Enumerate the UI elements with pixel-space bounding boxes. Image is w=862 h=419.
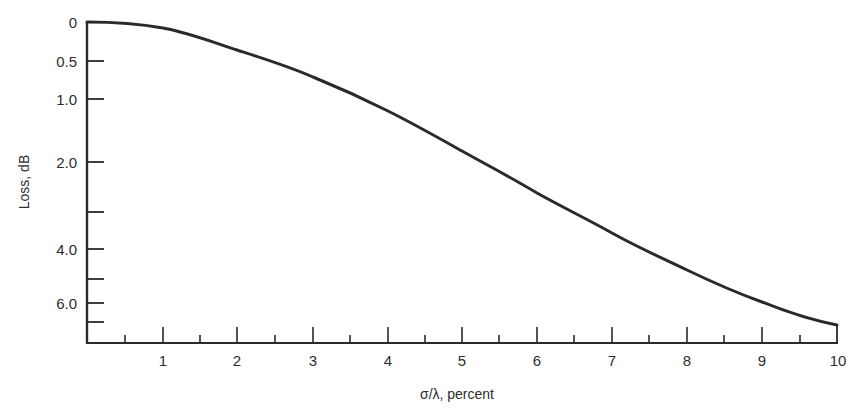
y-tick-label: 1.0	[56, 91, 77, 108]
y-tick-label: 2.0	[56, 154, 77, 171]
x-axis-title: σ/λ, percent	[420, 386, 494, 402]
y-tick-label: 6.0	[56, 295, 77, 312]
x-tick-label: 2	[233, 352, 241, 369]
x-tick-label: 3	[309, 352, 317, 369]
x-tick-label: 10	[830, 352, 847, 369]
x-axis: 1 2 3 4 5 6 7 8 9 10	[86, 324, 846, 369]
x-ticks	[125, 327, 800, 343]
y-tick-label: 0.5	[56, 53, 77, 70]
y-tick-label: 4.0	[56, 241, 77, 258]
x-tick-label: 5	[458, 352, 466, 369]
y-tick-label: 0	[69, 14, 77, 31]
x-tick-label: 4	[384, 352, 392, 369]
y-axis-title: Loss, dB	[16, 155, 32, 209]
x-tick-label: 6	[533, 352, 541, 369]
y-axis: 0 0.5 1.0 2.0 4.0 6.0	[56, 14, 104, 343]
x-tick-label: 7	[608, 352, 616, 369]
loss-curve	[87, 22, 837, 325]
loss-chart: 0 0.5 1.0 2.0 4.0 6.0	[0, 0, 862, 419]
x-tick-label: 9	[758, 352, 766, 369]
x-tick-label: 1	[159, 352, 167, 369]
y-ticks	[87, 61, 104, 322]
x-tick-label: 8	[683, 352, 691, 369]
